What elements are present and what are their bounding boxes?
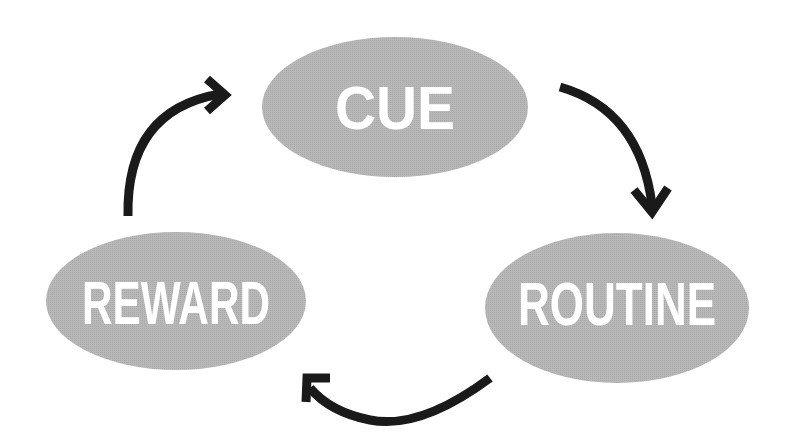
cue-label: CUE [335,73,455,142]
node-reward: REWARD [46,232,306,370]
arrow-routine-to-reward-icon [306,378,490,422]
reward-label: REWARD [82,268,270,337]
arrow-cue-to-routine-icon [560,87,668,212]
node-cue: CUE [262,37,528,177]
routine-label: ROUTINE [518,269,716,338]
arrow-reward-to-cue-icon [128,79,225,216]
habit-loop-diagram: CUE ROUTINE REWARD [0,0,786,448]
node-routine: ROUTINE [485,233,749,383]
